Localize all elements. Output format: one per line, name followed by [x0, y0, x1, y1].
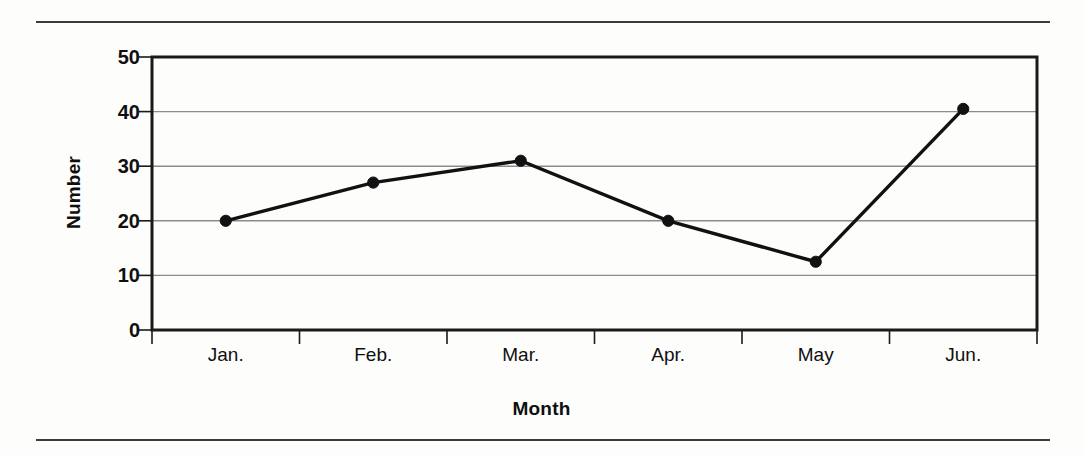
y-tick-label: 0	[88, 320, 140, 340]
x-tick-label: Jan.	[152, 345, 300, 364]
x-axis-title: Month	[0, 398, 1083, 420]
chart-canvas	[0, 0, 1083, 455]
x-tick-label: Mar.	[447, 345, 595, 364]
y-tick-label: 10	[88, 265, 140, 285]
data-point	[663, 215, 674, 226]
y-axis-title: Number	[63, 156, 85, 229]
plot-border	[152, 57, 1037, 330]
y-tick-label: 20	[88, 211, 140, 231]
data-point	[515, 155, 526, 166]
data-point-markers	[220, 103, 969, 267]
y-tick-label: 40	[88, 102, 140, 122]
data-line-series	[226, 109, 964, 262]
series-polyline	[226, 109, 964, 262]
data-point	[810, 256, 821, 267]
data-point	[368, 177, 379, 188]
x-tick-label: Jun.	[890, 345, 1038, 364]
x-tick-label: Apr.	[595, 345, 743, 364]
data-point	[220, 215, 231, 226]
plot-frame	[152, 57, 1037, 330]
y-tick-label: 30	[88, 156, 140, 176]
y-axis-ticks	[139, 57, 152, 330]
y-tick-label: 50	[88, 47, 140, 67]
x-tick-label: May	[742, 345, 890, 364]
data-point	[958, 103, 969, 114]
x-tick-label: Feb.	[300, 345, 448, 364]
x-axis-ticks	[152, 330, 1037, 344]
figure-container: 01020304050 Jan.Feb.Mar.Apr.MayJun. Numb…	[0, 0, 1083, 455]
line-chart: 01020304050 Jan.Feb.Mar.Apr.MayJun.	[0, 0, 1083, 455]
gridlines	[152, 112, 1037, 276]
